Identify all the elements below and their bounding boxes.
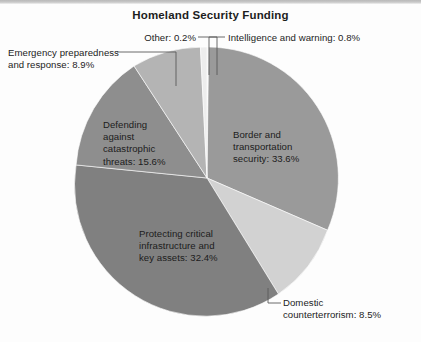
slice-label-emergency: Emergency preparedness and response: 8.9… <box>8 47 168 71</box>
slice-label-intelligence: Intelligence and warning: 0.8% <box>228 32 408 44</box>
chart-figure: Homeland Security Funding <box>0 0 421 342</box>
slice-label-protecting: Protecting critical infrastructure and k… <box>139 228 249 265</box>
slice-label-border: Border and transportation security: 33.6… <box>233 129 325 166</box>
slice-label-defending: Defending against catastrophic threats: … <box>103 119 183 168</box>
pie-slices <box>75 47 339 316</box>
slice-label-other: Other: 0.2% <box>134 32 196 44</box>
slice-label-domestic: Domestic counterterrorism: 8.5% <box>283 297 418 321</box>
